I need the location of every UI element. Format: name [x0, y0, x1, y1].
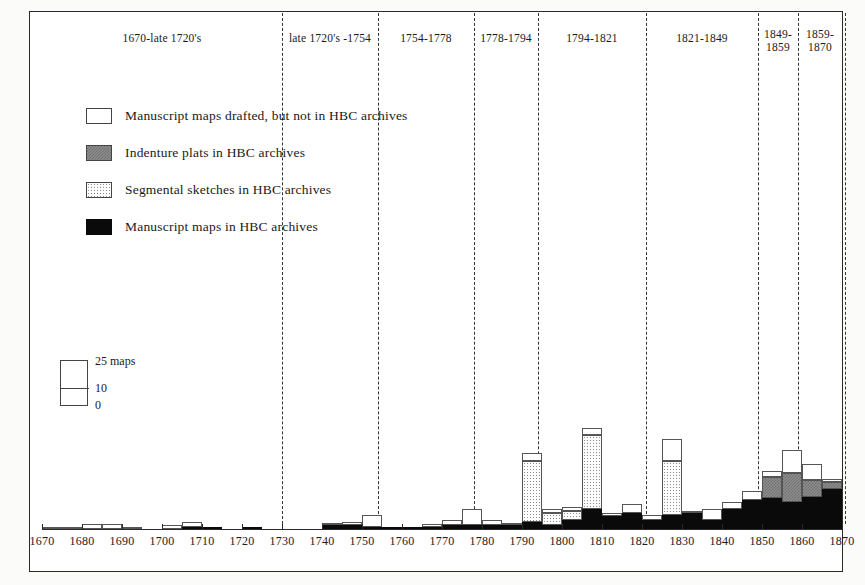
period-label: 1849- 1859 [758, 28, 798, 54]
bar-1790 [522, 453, 542, 529]
bar-segment-manuscript_archived [522, 522, 542, 529]
bar-1800 [562, 507, 582, 529]
period-divider [646, 13, 647, 524]
bar-segment-segmental_sketches [662, 461, 682, 515]
bar-segment-drafted_not_archived [602, 513, 622, 517]
bar-segment-drafted_not_archived [742, 491, 762, 500]
bar-segment-indenture_plats [822, 482, 842, 489]
bar-1860 [802, 464, 822, 529]
bar-segment-drafted_not_archived [462, 509, 482, 525]
legend-item-segmental-sketches: Segmental sketches in HBC archives [86, 182, 408, 198]
bar-segment-manuscript_archived [662, 515, 682, 529]
x-axis-tick [42, 524, 43, 530]
legend-label-manuscript-archived: Manuscript maps in HBC archives [125, 219, 318, 235]
x-axis-tick [282, 524, 283, 530]
bar-1835 [702, 509, 722, 529]
bar-segment-drafted_not_archived [522, 453, 542, 460]
bar-segment-manuscript_archived [602, 516, 622, 529]
bar-segment-drafted_not_archived [442, 520, 462, 525]
x-axis-tick [82, 524, 83, 530]
period-label: 1821-1849 [646, 32, 758, 45]
bar-segment-drafted_not_archived [322, 523, 342, 525]
x-axis-tick [602, 524, 603, 530]
x-axis-label-1870: 1870 [819, 534, 865, 549]
bar-segment-manuscript_archived [642, 520, 662, 529]
bar-segment-drafted_not_archived [762, 471, 782, 476]
x-axis-tick [682, 524, 683, 530]
x-axis-tick [362, 524, 363, 530]
x-axis-tick [162, 524, 163, 530]
bar-1850 [762, 471, 782, 529]
bar-segment-drafted_not_archived [342, 522, 362, 526]
legend-item-drafted-not-archived: Manuscript maps drafted, but not in HBC … [86, 108, 408, 124]
legend-swatch-grey [86, 145, 112, 161]
bar-segment-manuscript_archived [582, 509, 602, 529]
bar-segment-drafted_not_archived [582, 428, 602, 435]
x-axis-tick [842, 524, 843, 530]
bar-1705 [182, 522, 202, 529]
bar-1820 [642, 515, 662, 529]
bar-segment-segmental_sketches [582, 435, 602, 509]
bar-segment-manuscript_archived [702, 520, 722, 529]
period-label: 1859- 1870 [798, 28, 842, 54]
bar-1795 [542, 509, 562, 529]
bar-segment-segmental_sketches [562, 511, 582, 520]
x-axis-tick [442, 524, 443, 530]
bar-1810 [602, 513, 622, 529]
bar-segment-indenture_plats [782, 473, 802, 502]
plot-area: 1670-late 1720'slate 1720's -17541754-17… [0, 0, 865, 585]
period-divider [845, 13, 846, 524]
bar-segment-drafted_not_archived [702, 509, 722, 520]
bar-1845 [742, 491, 762, 529]
x-axis-tick [202, 524, 203, 530]
bar-1825 [662, 439, 682, 529]
bar-segment-drafted_not_archived [722, 502, 742, 509]
scale-key-label-25: 25 maps [95, 354, 135, 369]
bar-segment-drafted_not_archived [822, 479, 842, 483]
legend-swatch-white [86, 108, 112, 124]
bar-segment-drafted_not_archived [782, 450, 802, 473]
bar-segment-manuscript_archived [562, 520, 582, 529]
bar-segment-manuscript_archived [682, 513, 702, 529]
bar-1855 [782, 450, 802, 529]
period-label: 1778-1794 [474, 32, 538, 45]
bar-1840 [722, 502, 742, 529]
bar-segment-manuscript_archived [722, 509, 742, 529]
bar-segment-manuscript_archived [802, 497, 822, 529]
legend-label-indenture-plats: Indenture plats in HBC archives [125, 145, 305, 161]
x-axis-tick [122, 524, 123, 530]
bar-segment-drafted_not_archived [502, 523, 522, 525]
legend-label-drafted-not-archived: Manuscript maps drafted, but not in HBC … [125, 108, 408, 124]
bar-segment-drafted_not_archived [542, 509, 562, 513]
bar-segment-drafted_not_archived [362, 515, 382, 528]
period-divider [378, 13, 379, 524]
bar-1830 [682, 511, 702, 529]
bar-segment-indenture_plats [802, 480, 822, 496]
bar-1745 [342, 522, 362, 529]
x-axis-tick [762, 524, 763, 530]
period-label: 1670-late 1720's [42, 32, 282, 45]
x-axis-tick [722, 524, 723, 530]
bar-segment-drafted_not_archived [562, 507, 582, 511]
x-axis-tick [802, 524, 803, 530]
x-axis-tick [322, 524, 323, 530]
legend-swatch-dotted [86, 182, 112, 198]
x-axis-tick [642, 524, 643, 530]
x-axis-tick [242, 524, 243, 530]
bar-segment-drafted_not_archived [422, 524, 442, 528]
legend-item-manuscript-archived: Manuscript maps in HBC archives [86, 219, 408, 235]
bar-segment-drafted_not_archived [482, 520, 502, 525]
bar-segment-drafted_not_archived [682, 511, 702, 513]
x-axis-tick [522, 524, 523, 530]
legend-swatch-black [86, 219, 112, 235]
bar-1815 [622, 504, 642, 529]
bar-segment-drafted_not_archived [622, 504, 642, 513]
period-divider [798, 13, 799, 524]
bar-1805 [582, 428, 602, 529]
x-axis-tick [562, 524, 563, 530]
chart-legend: Manuscript maps drafted, but not in HBC … [86, 108, 408, 256]
bar-segment-manuscript_archived [782, 502, 802, 529]
bar-segment-drafted_not_archived [642, 515, 662, 520]
period-label: 1754-1778 [378, 32, 474, 45]
bar-segment-manuscript_archived [822, 489, 842, 529]
